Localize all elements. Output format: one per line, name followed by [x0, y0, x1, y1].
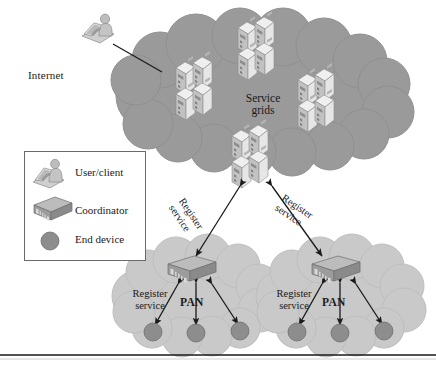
register-service-left-line2: service [122, 300, 178, 312]
legend-label-end-device: End device [75, 233, 124, 245]
diagram-canvas: Internet Service grids Register service … [0, 0, 436, 367]
internet-label: Internet [28, 70, 64, 82]
legend-label-coordinator: Coordinator [75, 204, 128, 216]
service-grids-label-line1: Service [232, 92, 294, 104]
pan-right-label: PAN [322, 296, 346, 308]
coordinator-icon [31, 192, 75, 226]
register-service-left-label: Register service [122, 288, 178, 312]
end-device-icon [31, 226, 75, 260]
service-grids-label: Service grids [232, 92, 294, 116]
register-service-right-line2: service [266, 300, 322, 312]
legend-item-user-client: User/client [25, 156, 147, 190]
register-service-right-line1: Register [266, 288, 322, 300]
pan-left-label: PAN [180, 296, 204, 308]
legend-item-end-device: End device [25, 226, 147, 260]
user-client-node [82, 14, 114, 43]
legend-item-coordinator: Coordinator [25, 192, 147, 226]
user-client-icon [31, 156, 75, 190]
register-service-right-label: Register service [266, 288, 322, 312]
legend-label-user-client: User/client [75, 166, 123, 178]
register-service-left-line1: Register [122, 288, 178, 300]
service-grids-label-line2: grids [232, 104, 294, 116]
legend: User/client Coordinator End device [24, 151, 146, 261]
